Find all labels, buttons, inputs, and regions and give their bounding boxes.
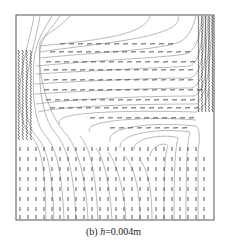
- vector-arrow: [198, 19, 199, 22]
- vector-arrow: [26, 59, 28, 62]
- vector-arrow: [202, 43, 203, 46]
- vector-arrow: [212, 58, 213, 61]
- vector-arrow: [30, 68, 32, 71]
- streamline: [36, 16, 210, 104]
- vector-arrow: [22, 83, 24, 86]
- vector-arrow: [26, 56, 28, 59]
- vector-arrow: [30, 104, 32, 107]
- velocity-vectors: [20, 44, 204, 219]
- streamline: [33, 16, 64, 220]
- vector-arrow: [30, 83, 32, 86]
- vector-arrow: [26, 68, 28, 71]
- vector-arrow: [30, 50, 32, 53]
- vector-arrow: [198, 97, 199, 100]
- vector-arrow: [30, 95, 32, 98]
- vector-arrow: [26, 71, 28, 74]
- vector-arrow: [198, 25, 199, 28]
- vector-arrow: [212, 100, 213, 103]
- vector-arrow: [202, 61, 203, 64]
- vector-arrow: [202, 100, 203, 103]
- vector-arrow: [22, 98, 24, 101]
- vector-arrow: [212, 22, 213, 25]
- vector-arrow: [26, 122, 28, 125]
- vector-arrow: [205, 34, 206, 37]
- vector-arrow: [22, 77, 24, 80]
- vector-arrow: [205, 88, 206, 91]
- vector-arrow: [198, 64, 199, 67]
- vector-arrow: [198, 106, 199, 109]
- vector-arrow: [202, 46, 203, 49]
- vector-arrow: [22, 95, 24, 98]
- vector-arrow: [26, 125, 28, 128]
- vector-arrow: [205, 37, 206, 40]
- vector-arrow: [198, 82, 199, 85]
- vector-arrow: [18, 83, 20, 86]
- vector-arrow: [209, 70, 210, 73]
- vector-arrow: [22, 113, 24, 116]
- vector-arrow: [18, 128, 20, 131]
- vector-arrow: [22, 137, 24, 140]
- vector-arrow: [22, 74, 24, 77]
- vector-arrow: [18, 77, 20, 80]
- vector-arrow: [209, 73, 210, 76]
- vector-arrow: [22, 80, 24, 83]
- vector-arrow: [22, 134, 24, 137]
- vector-arrow: [205, 94, 206, 97]
- vector-arrow: [198, 76, 199, 79]
- vector-arrow: [212, 70, 213, 73]
- vector-arrow: [209, 85, 210, 88]
- vector-arrow: [26, 92, 28, 95]
- vector-arrow: [209, 109, 210, 112]
- vector-arrow: [198, 61, 199, 64]
- vector-arrow: [198, 73, 199, 76]
- vector-arrow: [18, 119, 20, 122]
- vector-arrow: [26, 95, 28, 98]
- vector-arrow: [18, 122, 20, 125]
- vector-arrow: [209, 79, 210, 82]
- vector-arrow: [18, 101, 20, 104]
- vector-arrow: [30, 116, 32, 119]
- vector-arrow: [18, 50, 20, 53]
- vector-arrow: [198, 103, 199, 106]
- vector-arrow: [209, 49, 210, 52]
- vector-arrow: [212, 64, 213, 67]
- vector-arrow: [22, 125, 24, 128]
- vector-arrow: [198, 46, 199, 49]
- vector-arrow: [18, 137, 20, 140]
- vector-arrow: [212, 67, 213, 70]
- vector-arrow: [212, 37, 213, 40]
- vector-arrow: [22, 92, 24, 95]
- vector-arrow: [209, 52, 210, 55]
- vector-arrow: [198, 70, 199, 73]
- vector-arrow: [18, 53, 20, 56]
- vector-arrow: [26, 65, 28, 68]
- vector-arrow: [30, 92, 32, 95]
- streamline-figure: [0, 0, 227, 248]
- vector-arrow: [26, 62, 28, 65]
- vector-arrow: [205, 40, 206, 43]
- vector-arrow: [198, 79, 199, 82]
- vector-arrow: [212, 94, 213, 97]
- vector-arrow: [209, 16, 210, 19]
- vector-arrow: [212, 103, 213, 106]
- vector-arrow: [22, 128, 24, 131]
- vector-arrow: [202, 70, 203, 73]
- streamline: [120, 131, 190, 220]
- vector-arrow: [198, 85, 199, 88]
- vector-arrow: [209, 22, 210, 25]
- vector-arrow: [22, 110, 24, 113]
- vector-arrow: [202, 97, 203, 100]
- vector-arrow: [209, 88, 210, 91]
- vector-arrow: [30, 110, 32, 113]
- vector-arrow: [198, 49, 199, 52]
- vector-arrow: [18, 71, 20, 74]
- vector-arrow: [205, 64, 206, 67]
- streamline: [96, 148, 112, 220]
- vector-arrow: [212, 97, 213, 100]
- streamline: [108, 152, 126, 220]
- vector-arrow: [212, 79, 213, 82]
- vector-arrow: [202, 22, 203, 25]
- vector-arrow: [202, 52, 203, 55]
- vector-arrow: [202, 49, 203, 52]
- vector-arrow: [212, 76, 213, 79]
